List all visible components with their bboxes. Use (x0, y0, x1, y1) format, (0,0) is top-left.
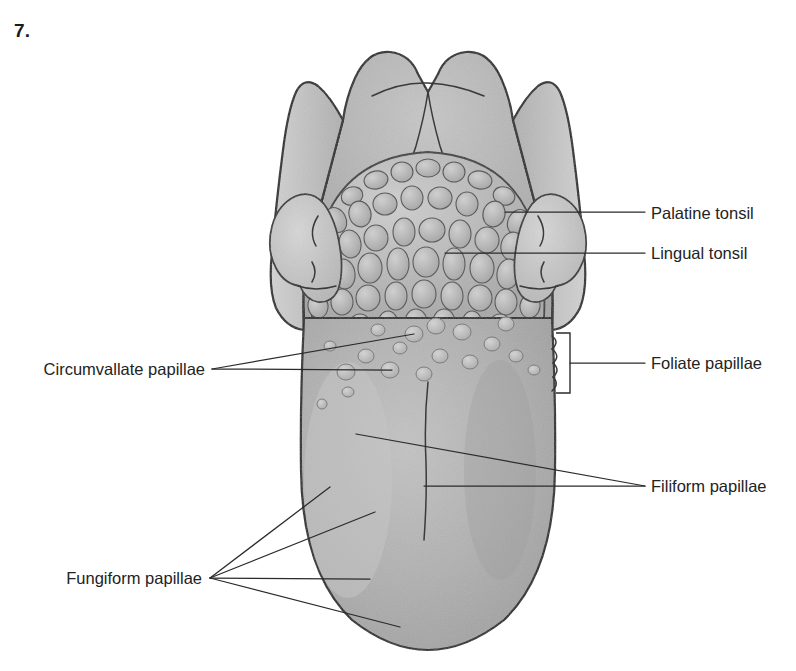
circumvallate-papilla (371, 324, 385, 336)
circumvallate-papilla (462, 355, 478, 369)
tongue-anatomy-diagram: Palatine tonsil Lingual tonsil Foliate p… (0, 0, 796, 671)
label-palatine-tonsil: Palatine tonsil (651, 204, 754, 222)
circumvallate-papilla (432, 349, 448, 363)
bracket-foliate-papillae (556, 333, 570, 393)
circumvallate-papilla (342, 387, 354, 397)
circumvallate-papilla (358, 349, 374, 363)
circumvallate-papilla (498, 317, 514, 331)
circumvallate-papilla (393, 342, 407, 354)
right-shadow (464, 360, 536, 580)
circumvallate-papilla (484, 337, 500, 351)
label-filiform-papillae: Filiform papillae (651, 477, 767, 495)
label-fungiform-papillae: Fungiform papillae (66, 569, 202, 587)
circumvallate-papilla (317, 399, 327, 409)
circumvallate-papilla (453, 324, 471, 340)
label-foliate-papillae: Foliate papillae (651, 354, 762, 372)
circumvallate-papilla (416, 367, 432, 381)
circumvallate-papilla (427, 318, 445, 334)
label-circumvallate-papillae: Circumvallate papillae (44, 360, 205, 378)
figure-container: 7. (0, 0, 796, 671)
circumvallate-papilla (337, 364, 355, 380)
label-lingual-tonsil: Lingual tonsil (651, 244, 747, 262)
circumvallate-papilla (509, 350, 523, 362)
circumvallate-papilla (528, 365, 540, 375)
